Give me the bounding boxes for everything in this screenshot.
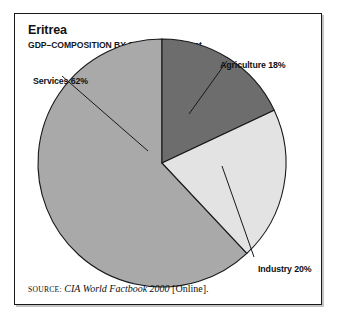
figure-frame: Eritrea GDP–COMPOSITION BY SECTOR–1995 e… [14,13,322,305]
pie-label-services: Services 62% [33,76,88,86]
pie-chart-svg [15,14,323,306]
source-title: CIA World Factbook 2000 [64,283,169,294]
source-line: SOURCE: CIA World Factbook 2000 [Online]… [28,283,209,294]
pie-label-industry: Industry 20% [258,264,312,274]
source-suffix: [Online]. [172,283,208,294]
pie-chart: Services 62% Agriculture 18% Industry 20… [15,14,323,306]
pie-label-agriculture: Agriculture 18% [220,60,285,70]
source-label: SOURCE: [28,285,62,294]
